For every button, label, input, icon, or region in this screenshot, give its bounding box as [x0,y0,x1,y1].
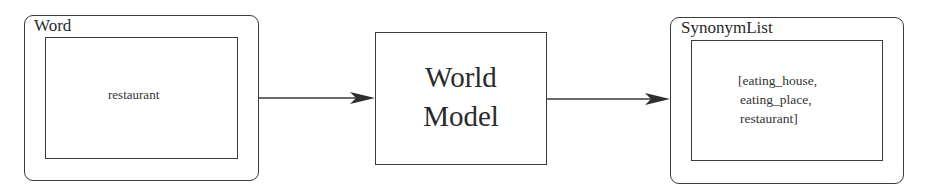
arrow-world-model-to-synonym-list [547,93,670,105]
connector-arrows [0,0,929,193]
arrow-word-to-world-model [259,92,375,104]
